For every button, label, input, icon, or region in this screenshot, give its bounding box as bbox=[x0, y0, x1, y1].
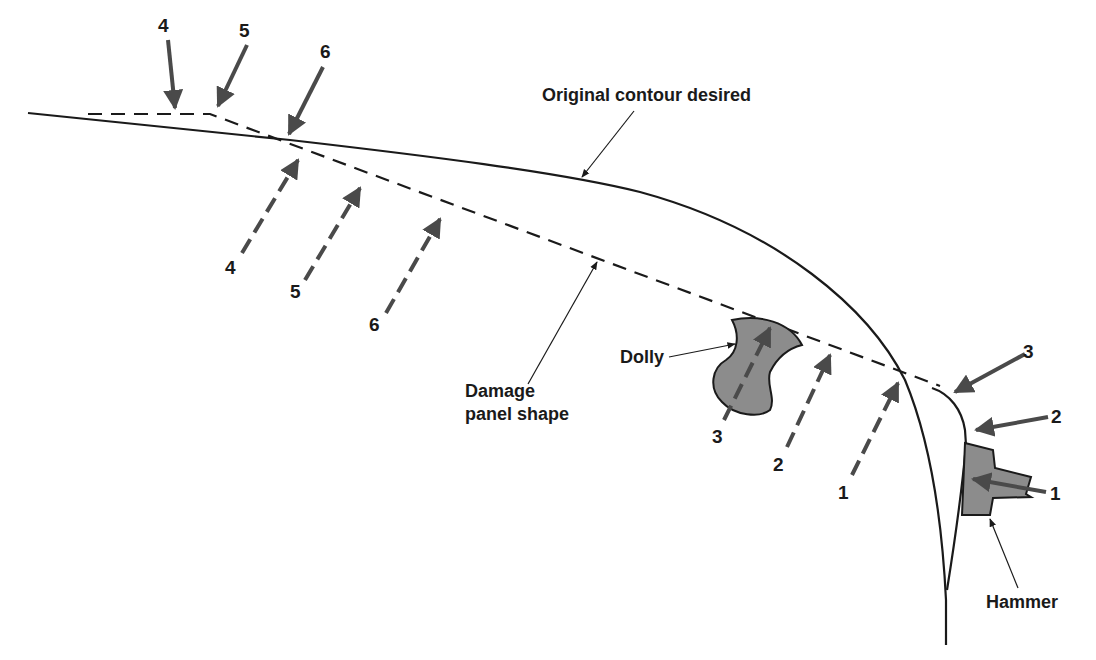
original-contour-label: Original contour desired bbox=[542, 85, 751, 105]
step-label-dolly-4: 4 bbox=[225, 257, 236, 278]
step-label-dolly-6: 6 bbox=[369, 314, 380, 335]
step-label-hammer-4: 4 bbox=[158, 15, 169, 36]
step-label-hammer-1: 1 bbox=[1050, 483, 1061, 504]
dolly-arrows-left bbox=[242, 160, 440, 313]
original-contour-line bbox=[28, 113, 946, 645]
hammer-icon bbox=[962, 443, 1031, 515]
dolly-leader bbox=[669, 344, 735, 357]
step-label-hammer-3: 3 bbox=[1023, 341, 1034, 362]
hammer-leader bbox=[990, 519, 1018, 588]
step-label-hammer-5: 5 bbox=[239, 20, 250, 41]
step-label-dolly-5: 5 bbox=[290, 281, 301, 302]
hammer-arrows-top bbox=[168, 40, 323, 134]
damage-panel-label-line1: Damage bbox=[465, 381, 535, 401]
step-label-dolly-2: 2 bbox=[773, 454, 784, 475]
damage-panel-leader bbox=[528, 262, 597, 384]
dolly-icon bbox=[713, 318, 802, 415]
step-label-hammer-6: 6 bbox=[320, 41, 331, 62]
damage-panel-label-line2: panel shape bbox=[465, 404, 569, 424]
step-label-dolly-3: 3 bbox=[712, 426, 723, 447]
dolly-label: Dolly bbox=[620, 347, 664, 367]
body-repair-diagram: 4 5 6 4 5 6 3 2 1 3 2 1 Original contour… bbox=[0, 0, 1096, 660]
original-contour-leader bbox=[582, 111, 634, 177]
damaged-edge-curve bbox=[932, 388, 966, 590]
hammer-label: Hammer bbox=[986, 592, 1058, 612]
damage-panel-line bbox=[88, 114, 940, 386]
step-label-dolly-1: 1 bbox=[838, 482, 849, 503]
step-label-hammer-2: 2 bbox=[1051, 406, 1062, 427]
